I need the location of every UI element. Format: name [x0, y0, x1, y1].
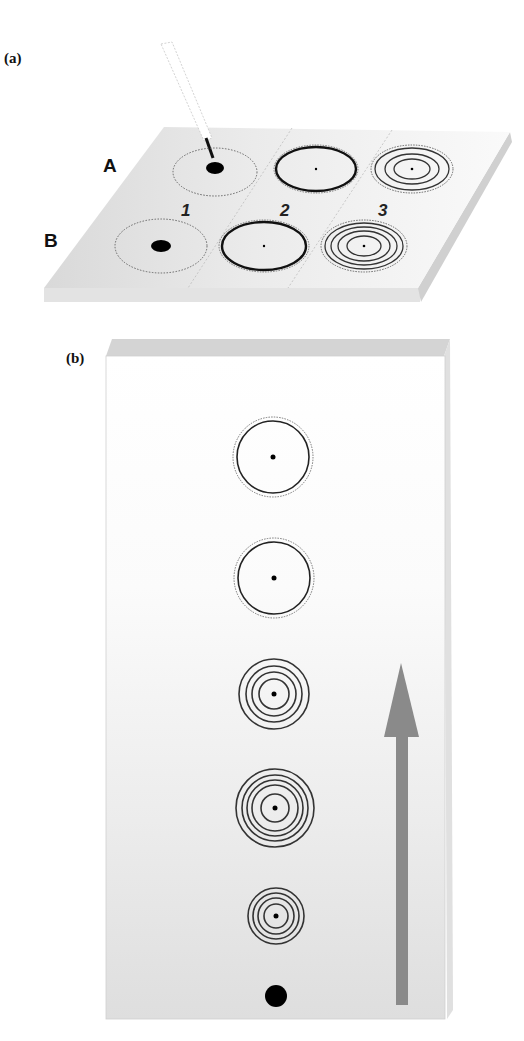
- panel-b: [106, 339, 453, 1019]
- plate-b-top-edge: [106, 339, 450, 356]
- column-label-2: 2: [279, 201, 290, 220]
- column-label-3: 3: [378, 201, 388, 220]
- figure-canvas: A B 1 2 3: [0, 0, 524, 1041]
- row-label-b: B: [44, 230, 58, 251]
- column-label-1: 1: [181, 201, 190, 220]
- spot-b-4: [236, 769, 314, 847]
- plate-a-front-edge: [44, 288, 420, 302]
- panel-a: A B 1 2 3: [44, 42, 512, 302]
- figure: (a) (b): [0, 0, 524, 1041]
- plate-b-surface: [106, 356, 445, 1019]
- origin-spot: [265, 985, 287, 1007]
- row-label-a: A: [103, 155, 117, 176]
